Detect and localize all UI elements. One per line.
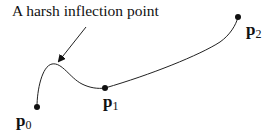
- diagram: A harsh inflection point p0 p1 p2: [0, 0, 272, 135]
- arrow-icon: [59, 27, 86, 61]
- point-p1-label: p1: [103, 92, 118, 114]
- point-p1-dot: [102, 85, 108, 91]
- point-p0-dot: [34, 104, 40, 110]
- curve-canvas: [0, 0, 272, 135]
- point-p0-label: p0: [16, 111, 31, 133]
- point-p2-dot: [235, 14, 241, 20]
- point-p2-label: p2: [246, 20, 261, 42]
- spline-curve: [37, 17, 238, 107]
- annotation-label: A harsh inflection point: [12, 2, 159, 20]
